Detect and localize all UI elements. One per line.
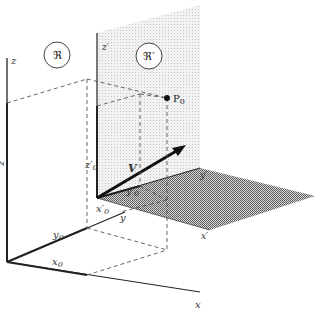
svg-text:ℜ′: ℜ′ xyxy=(143,50,155,63)
y-axis-label: y xyxy=(119,212,126,223)
frame-R-prime-badge: ℜ′ xyxy=(136,43,162,69)
point-p0 xyxy=(164,95,170,101)
z-prime-axis-label: z′ xyxy=(101,42,109,52)
z0-prime-label: z′0 xyxy=(84,159,98,172)
y0-label: y0 xyxy=(52,229,64,242)
reference-frames-diagram: ℜ ℜ′ z y x z y0 x0 z′ y′ x′ z′0 y′0 x′0 … xyxy=(0,0,318,316)
velocity-label: V xyxy=(128,162,138,175)
x-axis-thick-segment xyxy=(7,262,87,275)
x0-label: x0 xyxy=(52,256,63,269)
x0-prime-label: x′0 xyxy=(96,203,109,216)
svg-text:ℜ: ℜ xyxy=(53,49,62,62)
y-prime-axis-label: y′ xyxy=(199,170,207,180)
x-prime-axis-label: x′ xyxy=(201,231,208,241)
z0-label: z xyxy=(0,160,6,167)
z-axis-label: z xyxy=(10,55,17,66)
svg-text:z: z xyxy=(0,160,6,167)
frame-R-badge: ℜ xyxy=(44,42,70,68)
x-axis-label: x xyxy=(195,299,201,310)
y-axis-thick-segment xyxy=(7,228,87,262)
